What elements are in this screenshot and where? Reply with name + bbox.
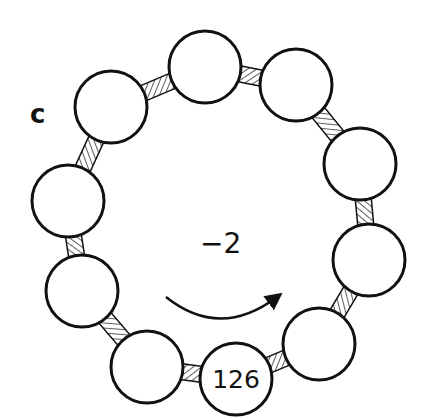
nucleosome-bead xyxy=(32,165,104,237)
nucleosome-bead xyxy=(111,331,183,403)
nucleosome-bead xyxy=(283,308,355,380)
nucleosome-bead xyxy=(169,31,241,103)
nucleosome-bead xyxy=(75,71,147,143)
nucleosome-bead xyxy=(260,49,332,121)
nucleosome-beads: 126 xyxy=(32,31,405,415)
panel-label: c xyxy=(30,99,45,129)
nucleosome-bead xyxy=(324,128,396,200)
supercoil-value-label: −2 xyxy=(200,227,241,260)
diagram-canvas: 126 c −2 xyxy=(0,0,436,420)
dna-ring-diagram: 126 c −2 xyxy=(0,0,436,420)
bead-label: 126 xyxy=(212,365,260,394)
nucleosome-bead xyxy=(46,255,118,327)
clockwise-arrow-icon xyxy=(166,297,277,319)
nucleosome-bead xyxy=(333,224,405,296)
